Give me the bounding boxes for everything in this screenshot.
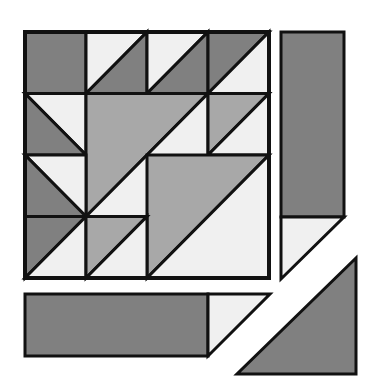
bottom-strip-dark-rect [25, 294, 208, 356]
quilt-block-diagram [0, 0, 368, 383]
side-strip-light-triangle [281, 217, 344, 279]
bottom-strip-light-triangle [208, 294, 270, 356]
side-strip-dark-rect [281, 32, 344, 217]
quilt-diagram-canvas [0, 0, 368, 383]
unit-r1c1-solid-dark [25, 32, 86, 94]
